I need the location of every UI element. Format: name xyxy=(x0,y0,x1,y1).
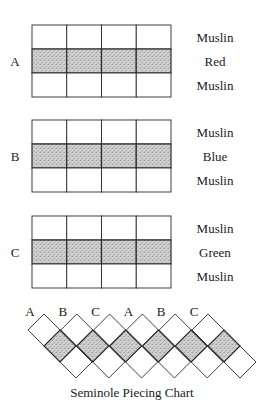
band-label: C xyxy=(91,304,100,319)
plain-cell xyxy=(32,264,67,288)
assembled-band: ABCABC xyxy=(25,304,256,378)
plain-cell xyxy=(32,216,67,240)
plain-cell xyxy=(32,25,67,49)
shaded-cell xyxy=(67,144,102,168)
plain-cell xyxy=(67,73,102,97)
shaded-cell xyxy=(136,144,171,168)
strip-set-a: MuslinRedMuslinA xyxy=(10,25,234,97)
fabric-label: Red xyxy=(205,54,226,69)
fabric-label: Muslin xyxy=(197,30,234,45)
shaded-cell xyxy=(136,49,171,73)
fabric-label: Blue xyxy=(203,149,228,164)
band-label: B xyxy=(157,304,166,319)
fabric-label: Muslin xyxy=(197,78,234,93)
band-label: C xyxy=(190,304,199,319)
fabric-label: Green xyxy=(199,245,231,260)
seminole-piecing-diagram: MuslinRedMuslinAMuslinBlueMuslinBMuslinG… xyxy=(0,0,264,402)
shaded-cell xyxy=(102,240,137,264)
shaded-cell xyxy=(67,49,102,73)
strip-label: A xyxy=(10,54,20,69)
shaded-cell xyxy=(32,49,67,73)
strip-set-b: MuslinBlueMuslinB xyxy=(11,120,234,192)
plain-cell xyxy=(136,216,171,240)
plain-cell xyxy=(102,73,137,97)
plain-cell xyxy=(102,120,137,144)
plain-cell xyxy=(32,120,67,144)
band-label: A xyxy=(25,304,35,319)
plain-cell xyxy=(136,25,171,49)
shaded-cell xyxy=(67,240,102,264)
plain-cell xyxy=(67,25,102,49)
plain-cell xyxy=(32,168,67,192)
strip-label: C xyxy=(11,245,20,260)
plain-cell xyxy=(67,264,102,288)
plain-cell xyxy=(67,216,102,240)
shaded-cell xyxy=(32,240,67,264)
plain-cell xyxy=(102,216,137,240)
fabric-label: Muslin xyxy=(197,125,234,140)
plain-cell xyxy=(67,168,102,192)
plain-cell xyxy=(67,120,102,144)
plain-cell xyxy=(136,168,171,192)
plain-cell xyxy=(136,73,171,97)
strip-sets: MuslinRedMuslinAMuslinBlueMuslinBMuslinG… xyxy=(10,25,234,288)
plain-cell xyxy=(102,264,137,288)
fabric-label: Muslin xyxy=(197,221,234,236)
strip-set-c: MuslinGreenMuslinC xyxy=(11,216,234,288)
plain-cell xyxy=(136,264,171,288)
band-label: A xyxy=(124,304,134,319)
shaded-cell xyxy=(102,144,137,168)
plain-cell xyxy=(102,168,137,192)
shaded-cell xyxy=(136,240,171,264)
shaded-cell xyxy=(102,49,137,73)
plain-cell xyxy=(32,73,67,97)
plain-cell xyxy=(136,120,171,144)
fabric-label: Muslin xyxy=(197,173,234,188)
band-label: B xyxy=(58,304,67,319)
plain-cell xyxy=(102,25,137,49)
fabric-label: Muslin xyxy=(197,269,234,284)
shaded-cell xyxy=(32,144,67,168)
chart-caption: Seminole Piecing Chart xyxy=(70,385,194,400)
strip-label: B xyxy=(11,149,20,164)
